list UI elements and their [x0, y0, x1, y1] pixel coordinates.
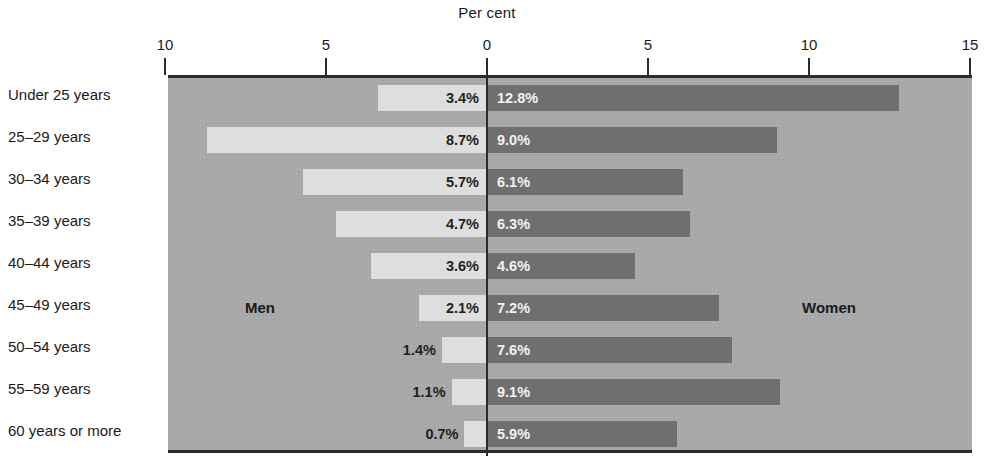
bar-men[interactable]	[464, 421, 487, 447]
population-pyramid-chart: Per cent 105051015 Men Women 3.4%12.8%8.…	[0, 0, 984, 475]
bar-row: 3.6%4.6%	[168, 253, 972, 279]
axis-title: Per cent	[458, 4, 515, 21]
bar-value-women: 6.3%	[497, 211, 530, 237]
bar-women[interactable]	[487, 127, 777, 153]
x-tick-label-0: 10	[157, 36, 174, 53]
bar-row: 0.7%5.9%	[168, 421, 972, 447]
category-label: 35–39 years	[8, 208, 91, 234]
bar-men[interactable]	[452, 379, 487, 405]
category-label: 25–29 years	[8, 124, 91, 150]
bar-value-women: 9.0%	[497, 127, 530, 153]
bar-value-women: 7.6%	[497, 337, 530, 363]
x-tick-mark-4	[808, 58, 810, 75]
zero-axis-line	[486, 61, 488, 456]
category-label: 55–59 years	[8, 376, 91, 402]
bar-row: 8.7%9.0%	[168, 127, 972, 153]
x-axis-tick-labels: 105051015	[0, 36, 984, 56]
bar-value-men: 3.6%	[371, 253, 487, 279]
bar-value-men: 3.4%	[378, 85, 487, 111]
bar-row: 3.4%12.8%	[168, 85, 972, 111]
x-tick-mark-5	[969, 58, 971, 75]
x-tick-label-1: 5	[322, 36, 330, 53]
bar-value-men: 1.4%	[403, 337, 436, 363]
plot-area: Men Women 3.4%12.8%8.7%9.0%5.7%6.1%4.7%6…	[168, 75, 972, 453]
category-label: 40–44 years	[8, 250, 91, 276]
bar-row: 1.1%9.1%	[168, 379, 972, 405]
bar-value-men: 5.7%	[303, 169, 487, 195]
x-tick-label-5: 15	[962, 36, 979, 53]
bar-women[interactable]	[487, 379, 780, 405]
x-tick-mark-1	[325, 58, 327, 75]
category-label: 30–34 years	[8, 166, 91, 192]
category-label: Under 25 years	[8, 82, 111, 108]
x-tick-label-3: 5	[644, 36, 652, 53]
category-label: 50–54 years	[8, 334, 91, 360]
bar-value-men: 8.7%	[207, 127, 487, 153]
bar-value-men: 1.1%	[413, 379, 446, 405]
bar-row: 5.7%6.1%	[168, 169, 972, 195]
bar-value-men: 4.7%	[336, 211, 487, 237]
bar-row: 4.7%6.3%	[168, 211, 972, 237]
x-tick-label-2: 0	[483, 36, 491, 53]
category-label: 45–49 years	[8, 292, 91, 318]
bar-value-women: 7.2%	[497, 295, 530, 321]
x-tick-label-4: 10	[801, 36, 818, 53]
bar-value-women: 9.1%	[497, 379, 530, 405]
series-annotation-men: Men	[245, 299, 275, 316]
x-tick-mark-0	[164, 58, 166, 75]
bar-value-men: 0.7%	[425, 421, 458, 447]
bar-value-women: 5.9%	[497, 421, 530, 447]
x-axis-tick-marks	[0, 58, 984, 75]
x-tick-mark-3	[647, 58, 649, 75]
series-annotation-women: Women	[802, 299, 856, 316]
bar-women[interactable]	[487, 85, 899, 111]
bar-value-women: 6.1%	[497, 169, 530, 195]
bar-value-women: 4.6%	[497, 253, 530, 279]
bar-value-women: 12.8%	[497, 85, 538, 111]
bar-row: 1.4%7.6%	[168, 337, 972, 363]
category-label: 60 years or more	[8, 418, 121, 444]
bar-men[interactable]	[442, 337, 487, 363]
bar-value-men: 2.1%	[419, 295, 487, 321]
